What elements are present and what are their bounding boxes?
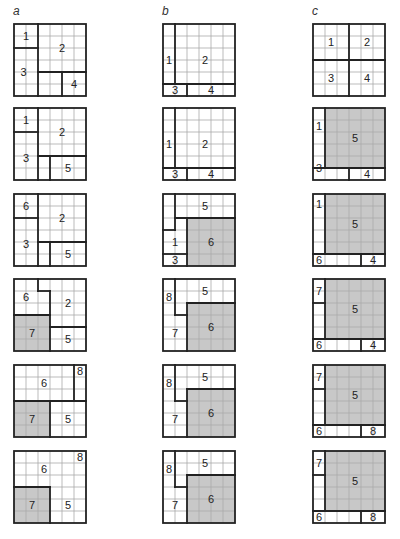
- region-label: 7: [316, 371, 322, 383]
- region-label: 1: [23, 114, 29, 126]
- region-label: 6: [316, 425, 322, 437]
- region-label: 5: [65, 499, 71, 511]
- region-label: 8: [166, 291, 172, 303]
- region-label: 2: [59, 212, 65, 224]
- region-label: 5: [352, 218, 358, 230]
- region-label: 7: [316, 457, 322, 469]
- region-label: 3: [328, 72, 334, 84]
- region-label: 5: [202, 371, 208, 383]
- grid-panel-a3: 6235: [13, 193, 87, 267]
- grid-panel-c5: 7568: [312, 364, 386, 438]
- grid-panel-a2: 1235: [13, 107, 87, 181]
- region-label: 5: [352, 303, 358, 315]
- region-label: 5: [202, 200, 208, 212]
- column-label-b: b: [162, 4, 169, 18]
- grid-panel-c3: 1564: [312, 193, 386, 267]
- region-label: 3: [21, 66, 27, 78]
- grid-panel-c2: 1534: [312, 107, 386, 181]
- region-label: 5: [65, 333, 71, 345]
- region-label: 4: [370, 254, 376, 266]
- region-label: 6: [316, 511, 322, 523]
- region-label: 5: [65, 162, 71, 174]
- region-label: 1: [316, 120, 322, 132]
- region-label: 5: [202, 285, 208, 297]
- region-label: 2: [364, 36, 370, 48]
- region-label: 4: [208, 84, 214, 96]
- region-label: 5: [352, 475, 358, 487]
- region-label: 3: [172, 168, 178, 180]
- grid-panel-b1: 1234: [162, 23, 236, 97]
- region-label: 5: [202, 457, 208, 469]
- region-label: 3: [23, 152, 29, 164]
- region-label: 8: [370, 425, 376, 437]
- region-label: 4: [370, 339, 376, 351]
- grid-panel-c4: 7564: [312, 278, 386, 352]
- region-label: 7: [172, 327, 178, 339]
- region-label: 2: [65, 297, 71, 309]
- region-label: 1: [166, 138, 172, 150]
- region-label: 7: [29, 499, 35, 511]
- region-label: 3: [172, 254, 178, 266]
- region-label: 8: [77, 451, 83, 463]
- grid-panel-b2: 1234: [162, 107, 236, 181]
- region-label: 2: [202, 54, 208, 66]
- region-label: 7: [172, 499, 178, 511]
- region-label: 6: [316, 339, 322, 351]
- region-label: 6: [23, 200, 29, 212]
- grid-panel-a5: 8675: [13, 364, 87, 438]
- column-label-a: a: [13, 4, 20, 18]
- column-label-c: c: [312, 4, 318, 18]
- grid-panel-b4: 8576: [162, 278, 236, 352]
- region-label: 7: [29, 413, 35, 425]
- grid-panel-a4: 6275: [13, 278, 87, 352]
- region-label: 6: [208, 236, 214, 248]
- region-label: 2: [59, 126, 65, 138]
- region-label: 2: [59, 42, 65, 54]
- grid-panel-a6: 8675: [13, 450, 87, 524]
- region-label: 3: [172, 84, 178, 96]
- region-label: 1: [23, 30, 29, 42]
- grid-panel-b6: 8576: [162, 450, 236, 524]
- region-label: 4: [71, 78, 77, 90]
- grid-panel-b3: 5613: [162, 193, 236, 267]
- region-label: 5: [65, 413, 71, 425]
- region-label: 1: [316, 198, 322, 210]
- region-label: 6: [316, 254, 322, 266]
- region-label: 6: [208, 407, 214, 419]
- region-label: 8: [166, 377, 172, 389]
- grid-panel-b5: 8576: [162, 364, 236, 438]
- grid-panel-c1: 1234: [312, 23, 386, 97]
- region-label: 6: [41, 377, 47, 389]
- region-label: 1: [172, 236, 178, 248]
- region-label: 1: [328, 36, 334, 48]
- region-label: 4: [364, 72, 370, 84]
- grid-panel-c6: 7568: [312, 450, 386, 524]
- region-label: 4: [208, 168, 214, 180]
- region-label: 7: [29, 327, 35, 339]
- region-label: 8: [166, 463, 172, 475]
- region-label: 6: [208, 493, 214, 505]
- region-label: 7: [172, 413, 178, 425]
- region-label: 1: [166, 54, 172, 66]
- region-label: 3: [316, 162, 322, 174]
- region-label: 6: [41, 463, 47, 475]
- region-label: 2: [202, 138, 208, 150]
- region-label: 3: [23, 238, 29, 250]
- region-label: 5: [352, 132, 358, 144]
- region-label: 8: [370, 511, 376, 523]
- region-label: 8: [77, 365, 83, 377]
- region-label: 6: [23, 291, 29, 303]
- region-label: 4: [364, 168, 370, 180]
- grid-panel-a1: 1234: [13, 23, 87, 97]
- region-label: 7: [316, 285, 322, 297]
- region-label: 6: [208, 321, 214, 333]
- region-label: 5: [65, 248, 71, 260]
- region-label: 5: [352, 389, 358, 401]
